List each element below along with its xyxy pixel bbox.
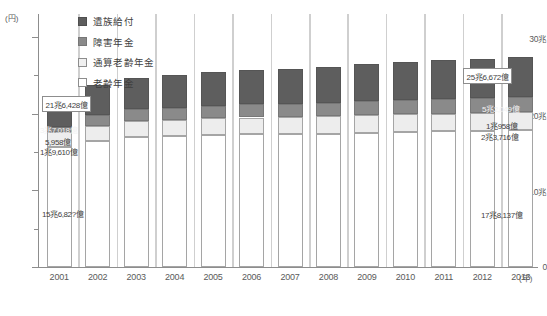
bar-segment-2009-老齢年金 [354, 133, 379, 267]
bar-segment-2008-障害年金 [316, 103, 341, 117]
x-tick-label-2005: 2005 [193, 272, 233, 282]
legend-label-izoku-kyufu: 遺族給付 [93, 14, 134, 28]
bar-segment-2011-老齢年金 [431, 131, 456, 267]
x-tick-label-2008: 2008 [308, 272, 348, 282]
legend-item-tsuusan-rourei-nenkin: 通算老齢年金 [78, 55, 154, 69]
bar-segment-2010-障害年金 [393, 100, 418, 114]
bar-segment-2003-通算老齢年金 [124, 121, 149, 137]
y-tick-10 [32, 190, 39, 191]
legend-item-rourei-nenkin: 老齢年金 [78, 76, 154, 90]
bar-segment-2007-老齢年金 [278, 134, 303, 267]
value-label-2013-shougai: 1兆958億 [486, 120, 517, 131]
bar-segment-2009-障害年金 [354, 101, 379, 115]
bar-segment-2005-障害年金 [201, 106, 226, 119]
legend-item-izoku-kyufu: 遺族給付 [78, 14, 154, 28]
bar-segment-2004-老齢年金 [162, 136, 187, 267]
legend-swatch-rourei-nenkin [78, 78, 87, 87]
y-tick-30 [32, 37, 39, 38]
bar-segment-2009-通算老齢年金 [354, 115, 379, 132]
bar-segment-2008-老齢年金 [316, 134, 341, 267]
bar-segment-2005-通算老齢年金 [201, 118, 226, 135]
category-separator-2011-1 [463, 14, 464, 267]
bar-segment-2005-遺族給付 [201, 72, 226, 105]
bar-segment-2006-遺族給付 [239, 70, 264, 104]
x-axis-unit-label: (年) [519, 272, 532, 283]
category-separator-2009-1 [386, 14, 387, 267]
y-tick-minor-15 [34, 152, 39, 153]
bar-2009 [354, 14, 379, 267]
chart-legend: 遺族給付 障害年金 通算老齢年金 老齢年金 [78, 14, 154, 90]
category-separator-2007-1 [310, 14, 311, 267]
bar-segment-2009-遺族給付 [354, 64, 379, 101]
bar-segment-2005-老齢年金 [201, 135, 226, 267]
bar-segment-2007-通算老齢年金 [278, 117, 303, 134]
bar-segment-2007-障害年金 [278, 104, 303, 117]
bar-segment-2003-老齢年金 [124, 137, 149, 267]
bar-segment-2006-障害年金 [239, 104, 264, 117]
x-tick-label-2006: 2006 [232, 272, 272, 282]
legend-label-rourei-nenkin: 老齢年金 [93, 76, 134, 90]
bar-segment-2010-遺族給付 [393, 62, 418, 100]
x-tick-label-2003: 2003 [116, 272, 156, 282]
value-label-2013-tsuusan: 2兆3,716億 [481, 131, 518, 142]
bar-segment-2004-通算老齢年金 [162, 120, 187, 136]
value-label-2001-izoku: 3兆7,018億 [40, 124, 77, 135]
bar-segment-2013-老齢年金 [508, 130, 533, 267]
total-callout-2001: 21兆6,428億 [42, 96, 91, 112]
legend-label-shougai-nenkin: 障害年金 [93, 35, 134, 49]
category-separator-2010-1 [425, 14, 426, 267]
bar-segment-2007-遺族給付 [278, 69, 303, 104]
pension-benefits-stacked-bar-chart: (円) 010兆20兆30兆 2001200220032004200520062… [0, 0, 547, 316]
legend-item-shougai-nenkin: 障害年金 [78, 35, 154, 49]
legend-swatch-tsuusan-rourei-nenkin [78, 58, 87, 67]
bar-2004 [162, 14, 187, 267]
legend-swatch-izoku-kyufu [78, 17, 87, 26]
value-label-2001-tsuusan: 1兆9,610億 [40, 146, 77, 157]
x-tick-label-2010: 2010 [385, 272, 425, 282]
x-tick-label-2011: 2011 [424, 272, 464, 282]
x-tick-label-2001: 2001 [39, 272, 79, 282]
bar-segment-2011-通算老齢年金 [431, 114, 456, 132]
category-separator-2004-1 [194, 14, 195, 267]
y-tick-minor-25 [34, 75, 39, 76]
bar-2010 [393, 14, 418, 267]
bar-segment-2011-遺族給付 [431, 60, 456, 99]
bar-2008 [316, 14, 341, 267]
bar-segment-2008-通算老齢年金 [316, 116, 341, 133]
bar-segment-2012-老齢年金 [470, 131, 495, 267]
bar-segment-2001-老齢年金 [47, 147, 72, 267]
bar-segment-2004-障害年金 [162, 108, 187, 120]
category-separator-2003-1 [156, 14, 157, 267]
bar-segment-2004-遺族給付 [162, 75, 187, 108]
bar-segment-2006-通算老齢年金 [239, 118, 264, 135]
bar-2007 [278, 14, 303, 267]
value-label-2013-rourei: 17兆8,137億 [481, 209, 522, 220]
value-label-2013-izoku: 5兆2,049億 [482, 103, 519, 114]
total-callout-2013: 25兆6,672億 [463, 68, 512, 84]
legend-label-tsuusan-rourei-nenkin: 通算老齢年金 [93, 55, 154, 69]
bar-segment-2002-障害年金 [85, 115, 110, 126]
bar-2005 [201, 14, 226, 267]
bar-segment-2002-老齢年金 [85, 141, 110, 267]
bar-segment-2003-障害年金 [124, 109, 149, 121]
category-separator-2005-1 [233, 14, 234, 267]
bar-2011 [431, 14, 456, 267]
x-tick-label-2002: 2002 [78, 272, 118, 282]
bar-segment-2010-老齢年金 [393, 132, 418, 267]
x-tick-label-2004: 2004 [155, 272, 195, 282]
bar-segment-2006-老齢年金 [239, 134, 264, 267]
x-axis-line [38, 267, 538, 268]
value-label-2001-rourei: 15兆6,82?億 [42, 208, 83, 219]
y-tick-20 [32, 114, 39, 115]
y-tick-0 [32, 267, 39, 268]
bar-segment-2002-通算老齢年金 [85, 126, 110, 142]
x-tick-label-2009: 2009 [347, 272, 387, 282]
bar-segment-2010-通算老齢年金 [393, 114, 418, 132]
bar-segment-2011-障害年金 [431, 99, 456, 114]
legend-swatch-shougai-nenkin [78, 37, 87, 46]
bar-2006 [239, 14, 264, 267]
y-axis-unit-label: (円) [5, 12, 18, 23]
x-tick-label-2007: 2007 [270, 272, 310, 282]
y-tick-minor-5 [34, 229, 39, 230]
x-tick-label-2012: 2012 [462, 272, 502, 282]
